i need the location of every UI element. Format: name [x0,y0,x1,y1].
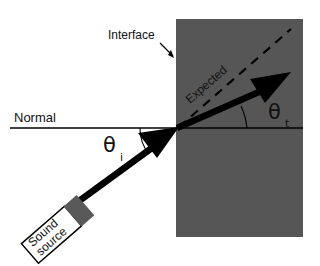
theta-i-subscript: i [120,151,123,164]
incident-ray [64,127,179,212]
sound-refraction-diagram: Normal Interface Expected θ t θ i [0,0,320,266]
diagram-canvas: Normal Interface Expected θ t θ i [0,0,320,266]
theta-t-symbol: θ [268,100,281,124]
normal-label: Normal [14,110,56,125]
theta-i-symbol: θ [103,133,116,157]
theta-t-subscript: t [285,117,290,130]
sound-source[interactable]: Sound source [21,195,94,263]
interface-label: Interface [108,28,155,42]
interface-pointer-arrow [160,43,174,58]
